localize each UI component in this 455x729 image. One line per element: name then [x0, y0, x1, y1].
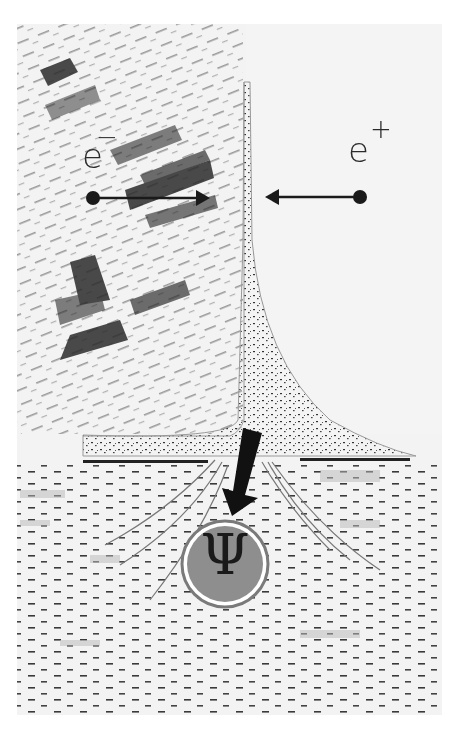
electron-region — [17, 24, 243, 434]
electron-charge: − — [96, 122, 118, 152]
ground-line-right — [300, 458, 410, 461]
positron-charge: + — [370, 114, 392, 144]
positron-symbol: e — [348, 130, 369, 170]
psi-symbol: Ψ — [200, 527, 250, 583]
annihilation-painting — [0, 0, 455, 729]
electron-label: e − — [82, 136, 103, 176]
positron-label: e + — [348, 130, 369, 170]
